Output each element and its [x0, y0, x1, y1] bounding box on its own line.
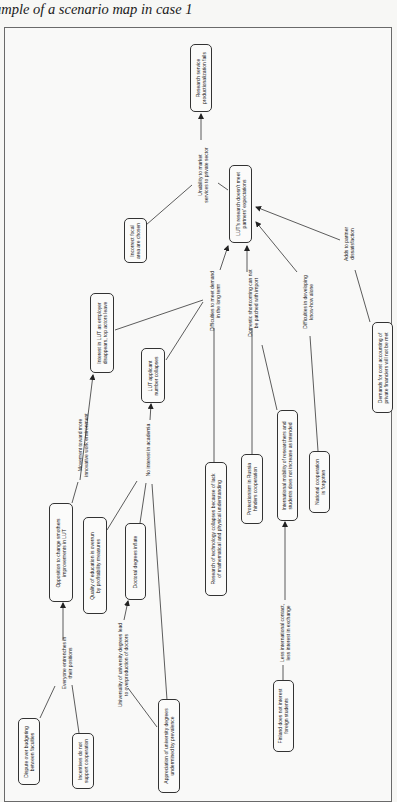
edge-n9-to-e4	[310, 336, 318, 451]
node-cost-accounting-demands: Demands for cost accounting ofprivate fi…	[372, 322, 393, 413]
edge-n15-to-e8	[40, 686, 55, 718]
edge-e4-to-n2	[256, 222, 297, 272]
edge-n11-to-e6	[72, 482, 78, 503]
edge-e5-to-n2	[256, 207, 340, 240]
node-research-technology-collapses: Research of technology collapses because…	[205, 462, 227, 596]
edge-n2-to-e1	[218, 183, 228, 190]
edge-label-less-international-contact: Less international contact,less interest…	[274, 600, 296, 666]
edge-label-unability-to-market: Unability to marketservices to private s…	[192, 140, 214, 210]
node-incentives-cooperation: Incentives do notsupport cooperation	[72, 733, 94, 789]
node-interest-in-lut-employer: Interest in LUT as employerdisappears, t…	[90, 293, 114, 373]
node-opposition-to-change: Opposition to change smothersimprovement…	[49, 503, 73, 602]
node-doctoral-degrees-inflate: Doctoral degrees inflate	[125, 523, 146, 600]
edge-n17-to-e7	[152, 484, 167, 700]
node-protectionism-russia: Protectionism in Russiahinders cooperati…	[241, 454, 263, 524]
edge-label-movement-toward: Movement toward moreinnovative work envi…	[72, 410, 94, 480]
node-research-service-fails: Research serviceproductionalization fail…	[190, 44, 212, 112]
edge-n16-to-e8	[72, 685, 79, 733]
edge-label-everyone-entrenches: Everyone entrenches intheir positions	[56, 640, 78, 686]
node-finland-foreign-students: Finland does not interestforeign student…	[273, 680, 294, 752]
edge-label-adds-to-partner: Adds to partnerdissatisfaction	[338, 223, 360, 265]
node-lut-applicant-collapses: LUT applicantnumber collapses	[141, 348, 165, 403]
node-quality-of-education: Quality of education is overrunby profit…	[83, 517, 107, 614]
edge-e2-to-n2	[220, 246, 228, 270]
edge-label-universality-degrees: Universality of university degrees leadt…	[112, 620, 134, 710]
edge-label-domestic-shortcoming: Domestic shortcoming can notbe patched w…	[242, 268, 264, 338]
edge-e9-to-n13	[124, 601, 128, 620]
node-incorrect-focal-area: Incorrect focalarea are chosen	[124, 218, 147, 263]
edge-label-no-interest-academia: No interest in academia	[140, 420, 156, 480]
edge-e7-to-n5	[150, 404, 151, 420]
edge-n4-to-e2	[115, 300, 203, 330]
edge-n7-to-e3	[262, 345, 277, 410]
node-international-mobility: International mobility of researchers an…	[277, 410, 298, 521]
node-lut-research-expectations: LUT's research doesn't meetpartners' exp…	[229, 165, 252, 243]
node-national-cooperation: National cooperationis forgotten	[309, 451, 330, 513]
edge-label-difficulties-meet-demand: Difficulties to meet demandin the long t…	[204, 270, 226, 332]
node-appreciation-degrees: Appreciation of university degreesunderm…	[158, 699, 180, 793]
edge-label-difficulties-developing: Difficulties in developingknow-how alone	[297, 272, 319, 332]
edge-n6-to-e5	[355, 270, 370, 322]
edge-n13-to-e7	[140, 483, 146, 523]
node-dispute-over-budgeting: Dispute over budgetingbetween faculties	[18, 718, 40, 785]
edge-n3-to-e1	[146, 185, 192, 225]
